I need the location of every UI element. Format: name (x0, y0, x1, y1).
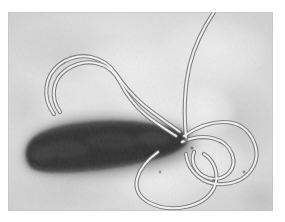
micrograph-image-area (8, 12, 273, 211)
micrograph-canvas (8, 12, 273, 211)
micrograph-figure: Transmission electron micrograph of a fl… (0, 0, 285, 222)
film-mottle-overlay (8, 12, 273, 211)
